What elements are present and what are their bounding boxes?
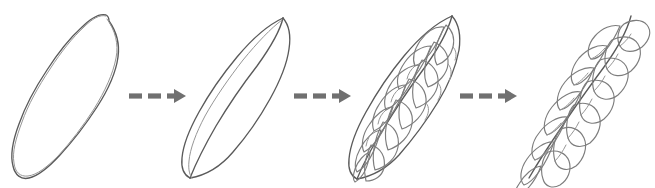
stage-4-leaflet-r2 [605,37,640,76]
arrow-1-head-icon [174,89,186,103]
stage-4-petiolule-l4 [547,123,561,135]
arrow-2-head-icon [339,89,351,103]
stage-2-inner-contour [189,20,282,178]
stage-2-pointed-blade [182,18,290,178]
stage-2-right-margin [190,18,290,178]
stage-4-petiolule-6 [555,145,566,161]
stage-4-leaflet-l1 [588,25,620,59]
stage-1-simple-ellipse [12,15,119,179]
stage-1-outline-texture [13,16,117,177]
arrow-stage1-to-stage2 [129,89,186,103]
stage-3-vein-loop-r1 [435,25,454,65]
stage-3-margin-arc-r1 [453,47,456,60]
arrow-3-head-icon [505,89,517,103]
stage-4-compound-leaf [515,16,650,188]
stage-3-margin-arc-l3 [378,110,386,124]
arrow-stage3-to-stage4 [460,89,517,103]
diagram-canvas [0,0,655,188]
leaf-progression-diagram: Leaf morphology progression [0,0,655,188]
arrow-stage2-to-stage3 [294,89,351,103]
stage-1-blade-outline [12,15,119,179]
stage-4-leaflet-l7 [515,166,541,188]
stage-2-midrib [190,18,283,178]
stage-3-pinnate-veined-blade [349,16,460,182]
stage-4-petiolule-4 [581,99,592,115]
stage-2-left-margin [182,18,283,178]
